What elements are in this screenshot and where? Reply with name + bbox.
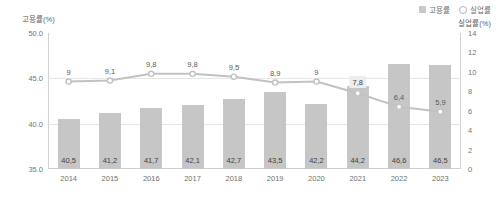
- plot-area: 35.040.045.050.0 02468101214 99,19,89,89…: [48, 33, 461, 169]
- y-axis-left-tick: 50.0: [28, 29, 43, 38]
- y-axis-right-tick: 8: [468, 87, 472, 96]
- bar-value-label: 46,6: [379, 156, 419, 165]
- y-axis-right-tick: 0: [468, 165, 472, 174]
- line-value-label: 9,1: [90, 67, 130, 76]
- line-marker[interactable]: [231, 74, 236, 79]
- line-value-label: 9,5: [214, 63, 254, 72]
- y-axis-left-tick: 45.0: [28, 74, 43, 83]
- x-axis-tick-label: 2018: [214, 174, 254, 183]
- line-marker[interactable]: [107, 78, 112, 83]
- bar-value-label: 42,1: [173, 156, 213, 165]
- legend-item-unemployment-rate[interactable]: 실업률: [459, 4, 491, 15]
- legend-item-employment-rate[interactable]: 고용률: [419, 4, 450, 15]
- y-axis-left-tick: 35.0: [28, 165, 43, 174]
- x-axis-tick-label: 2017: [173, 174, 213, 183]
- bar-swatch-icon: [419, 6, 426, 13]
- line-value-label: 7,8: [349, 76, 366, 88]
- y-axis-right-tick: 6: [468, 106, 472, 115]
- line-marker[interactable]: [190, 71, 195, 76]
- bar-value-label: 42,7: [214, 156, 254, 165]
- bar-value-label: 42,2: [296, 156, 336, 165]
- circle-marker-icon: [459, 6, 467, 14]
- line-marker[interactable]: [273, 80, 278, 85]
- x-axis-tick-label: 2014: [49, 174, 89, 183]
- bar-value-label: 40,5: [49, 156, 89, 165]
- line-marker[interactable]: [396, 104, 401, 109]
- line-value-label: 9,8: [131, 60, 171, 69]
- line-value-label: 9,8: [173, 60, 213, 69]
- line-marker[interactable]: [149, 71, 154, 76]
- line-marker[interactable]: [66, 79, 71, 84]
- legend-label-unemployment-rate: 실업률: [470, 4, 491, 15]
- line-marker[interactable]: [355, 91, 360, 96]
- line-marker[interactable]: [314, 79, 319, 84]
- x-axis-tick-label: 2016: [131, 174, 171, 183]
- x-axis-tick-label: 2019: [255, 174, 295, 183]
- y-axis-left-title: 고용률(%): [22, 13, 55, 24]
- legend-label-employment-rate: 고용률: [429, 4, 450, 15]
- line-value-label: 5,9: [420, 98, 460, 107]
- y-axis-right-tick: 4: [468, 126, 472, 135]
- y-axis-right-tick: 10: [468, 67, 476, 76]
- employment-unemployment-chart: 고용률 실업률 고용률(%) 실업률(%) 35.040.045.050.0 0…: [0, 0, 499, 199]
- y-axis-right-title: 실업률(%): [458, 17, 491, 28]
- line-value-label: 6,4: [379, 93, 419, 102]
- x-axis-tick-label: 2022: [379, 174, 419, 183]
- y-axis-right-tick: 2: [468, 145, 472, 154]
- chart-legend: 고용률 실업률: [419, 4, 491, 15]
- bar-value-label: 44,2: [338, 156, 378, 165]
- y-axis-right-tick: 14: [468, 29, 476, 38]
- x-axis-tick-label: 2015: [90, 174, 130, 183]
- x-axis-tick-label: 2021: [338, 174, 378, 183]
- x-axis-tick-label: 2023: [420, 174, 460, 183]
- bar-value-label: 46,5: [420, 156, 460, 165]
- bar-value-label: 41,2: [90, 156, 130, 165]
- y-axis-right-tick: 12: [468, 48, 476, 57]
- bar-value-label: 41,7: [131, 156, 171, 165]
- bar-value-label: 43,5: [255, 156, 295, 165]
- line-value-label: 8,9: [255, 69, 295, 78]
- line-value-label: 9: [296, 68, 336, 77]
- x-axis-tick-label: 2020: [296, 174, 336, 183]
- line-marker[interactable]: [438, 109, 443, 114]
- line-value-label: 9: [49, 68, 89, 77]
- y-axis-left-tick: 40.0: [28, 119, 43, 128]
